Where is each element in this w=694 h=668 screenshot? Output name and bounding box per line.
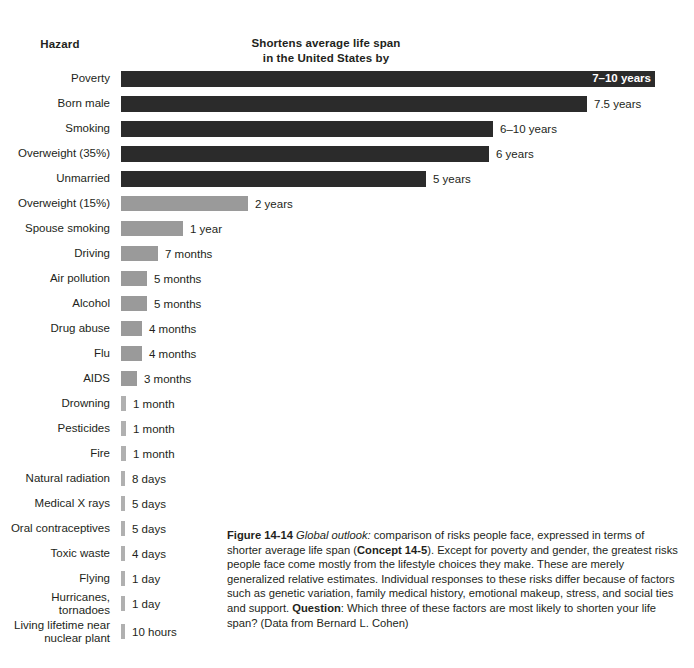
chart-row: Fire1 month	[0, 441, 694, 466]
bar-value-label: 1 month	[133, 423, 175, 435]
hazard-label: Born male	[0, 97, 120, 110]
hazard-label: Spouse smoking	[0, 222, 120, 235]
bar-poverty: 7–10 years	[121, 71, 655, 87]
column-header-value-line1: Shortens average life span	[226, 36, 426, 51]
hazard-label: Medical X rays	[0, 497, 120, 510]
bar-track: 7–10 years	[121, 66, 694, 91]
chart-row: Drug abuse4 months	[0, 316, 694, 341]
bar-value-label: 5 days	[132, 498, 166, 510]
bar-toxic-waste	[121, 546, 125, 561]
bar-track: 5 days	[121, 491, 694, 516]
column-header-value: Shortens average life span in the United…	[226, 36, 426, 66]
bar-value-label: 6–10 years	[500, 123, 557, 135]
chart-row: Flu4 months	[0, 341, 694, 366]
bar-value-label: 5 months	[154, 273, 201, 285]
bar-value-label: 10 hours	[132, 626, 177, 638]
bar-oral-contraceptives	[121, 521, 125, 536]
bar-track: 1 month	[121, 441, 694, 466]
chart-row: Medical X rays5 days	[0, 491, 694, 516]
hazard-label: Smoking	[0, 122, 120, 135]
chart-row: Spouse smoking1 year	[0, 216, 694, 241]
chart-row: Drowning1 month	[0, 391, 694, 416]
bar-value-label: 1 month	[133, 448, 175, 460]
chart-row: Smoking6–10 years	[0, 116, 694, 141]
hazard-label: Drowning	[0, 397, 120, 410]
hazard-label: Fire	[0, 447, 120, 460]
bar-value-label: 4 months	[149, 348, 196, 360]
bar-pesticides	[121, 421, 126, 436]
chart-row: AIDS3 months	[0, 366, 694, 391]
column-header-value-line2: in the United States by	[226, 51, 426, 66]
bar-track: 4 months	[121, 341, 694, 366]
hazard-label: Oral contraceptives	[0, 522, 120, 535]
bar-value-label: 3 months	[144, 373, 191, 385]
bar-value-label: 7.5 years	[594, 98, 641, 110]
hazard-label: AIDS	[0, 372, 120, 385]
bar-track: 6–10 years	[121, 116, 694, 141]
bar-track: 1 month	[121, 391, 694, 416]
figure-caption: Figure 14-14 Global outlook: comparison …	[227, 528, 682, 630]
bar-hurricanes-tornadoes	[121, 596, 125, 611]
caption-concept-ref: Concept 14-5	[357, 544, 427, 556]
bar-value-label: 1 month	[133, 398, 175, 410]
bar-alcohol	[121, 296, 147, 311]
bar-smoking	[121, 121, 493, 137]
bar-medical-x-rays	[121, 496, 125, 511]
bar-value-label: 5 months	[154, 298, 201, 310]
bar-value-label: 1 day	[132, 598, 160, 610]
hazard-label: Overweight (15%)	[0, 197, 120, 210]
bar-aids	[121, 371, 137, 386]
bar-natural-radiation	[121, 471, 125, 486]
bar-drowning	[121, 396, 126, 411]
bar-flu	[121, 346, 142, 361]
bar-track: 7.5 years	[121, 91, 694, 116]
caption-lead-italic: Global outlook:	[296, 529, 371, 541]
chart-row: Overweight (15%)2 years	[0, 191, 694, 216]
chart-row: Unmarried5 years	[0, 166, 694, 191]
bar-value-label: 1 day	[132, 573, 160, 585]
chart-row: Poverty7–10 years	[0, 66, 694, 91]
bar-driving	[121, 246, 158, 261]
chart-row: Pesticides1 month	[0, 416, 694, 441]
bar-value-label: 5 days	[132, 523, 166, 535]
bar-track: 2 years	[121, 191, 694, 216]
bar-track: 1 year	[121, 216, 694, 241]
bar-fire	[121, 446, 126, 461]
bar-track: 7 months	[121, 241, 694, 266]
hazard-label: Pesticides	[0, 422, 120, 435]
hazard-label: Overweight (35%)	[0, 147, 120, 160]
bar-value-label: 4 months	[149, 323, 196, 335]
chart-row: Alcohol5 months	[0, 291, 694, 316]
hazard-label: Alcohol	[0, 297, 120, 310]
bar-value-label: 1 year	[190, 223, 222, 235]
bar-track: 8 days	[121, 466, 694, 491]
bar-track: 3 months	[121, 366, 694, 391]
bar-drug-abuse	[121, 321, 142, 336]
hazard-label: Poverty	[0, 72, 120, 85]
chart-row: Born male7.5 years	[0, 91, 694, 116]
hazard-label: Driving	[0, 247, 120, 260]
bar-overweight-35	[121, 146, 489, 162]
hazard-label: Unmarried	[0, 172, 120, 185]
hazard-label: Drug abuse	[0, 322, 120, 335]
bar-unmarried	[121, 171, 426, 187]
bar-track: 5 months	[121, 266, 694, 291]
chart-row: Driving7 months	[0, 241, 694, 266]
hazard-label: Flying	[0, 572, 120, 585]
bar-flying	[121, 571, 125, 586]
bar-spouse-smoking	[121, 221, 183, 236]
hazard-label: Air pollution	[0, 272, 120, 285]
bar-value-label: 5 years	[433, 173, 471, 185]
bar-value-label: 7 months	[165, 248, 212, 260]
hazard-label: Living lifetime near nuclear plant	[0, 619, 120, 644]
caption-question-label: Question	[292, 602, 340, 614]
bar-track: 4 months	[121, 316, 694, 341]
bar-track: 5 years	[121, 166, 694, 191]
column-header-hazard: Hazard	[0, 38, 120, 50]
chart-row: Natural radiation8 days	[0, 466, 694, 491]
chart-row: Overweight (35%)6 years	[0, 141, 694, 166]
chart-row: Air pollution5 months	[0, 266, 694, 291]
bar-track: 1 month	[121, 416, 694, 441]
bar-value-label: 4 days	[132, 548, 166, 560]
bar-overweight-15	[121, 196, 248, 211]
